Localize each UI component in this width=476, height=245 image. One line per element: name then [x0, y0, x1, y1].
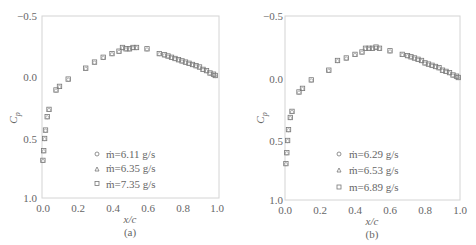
data-point-circle	[310, 79, 313, 82]
legend-square-icon	[337, 185, 341, 189]
x-tick-label: 0.4	[348, 204, 362, 216]
data-point-circle	[353, 53, 356, 56]
panel-a: −0.5 0.0 0.5 1.0 0.0 0.2 0.4 0.6 0.8 1.0…	[7, 10, 224, 239]
legend-triangle-icon	[337, 168, 341, 172]
y-tick-labels-a: −0.5 0.0 0.5 1.0	[17, 10, 37, 204]
data-point-circle	[67, 78, 70, 81]
x-tick-label: 0.4	[106, 202, 120, 214]
legend-label: m=6.89 g/s	[349, 181, 399, 193]
panel-b: −0.5 0.0 0.5 1.0 0.0 0.2 0.4 0.6 0.8 1.0…	[254, 10, 467, 241]
data-point-circle	[42, 150, 45, 153]
legend-label: ṁ=7.35 g/s	[106, 178, 156, 190]
legend-label: ṁ=6.11 g/s	[106, 148, 155, 160]
y-tick-label: −0.5	[17, 10, 37, 22]
y-axis-label-sub: p	[260, 112, 269, 117]
legend-circle-icon	[337, 152, 341, 156]
x-tick-label: 0.8	[176, 202, 190, 214]
data-point-circle	[388, 50, 391, 53]
y-tick-labels-b: −0.5 0.0 0.5 1.0	[263, 10, 283, 206]
x-axis-label-a: x/c	[123, 213, 137, 225]
x-tick-label: 1.0	[453, 204, 467, 216]
data-point-circle	[287, 129, 290, 132]
legend-circle-icon	[95, 152, 99, 156]
x-axis-label-b: x/c	[365, 215, 379, 227]
x-tick-label: 0.0	[278, 204, 292, 216]
data-point-circle	[47, 108, 50, 111]
legend-b: ṁ=6.29 g/s ṁ=6.53 g/s m=6.89 g/s	[337, 148, 399, 193]
figure: −0.5 0.0 0.5 1.0 0.0 0.2 0.4 0.6 0.8 1.0…	[0, 0, 476, 245]
data-point-circle	[285, 152, 288, 155]
legend-triangle-icon	[95, 167, 99, 171]
data-point-circle	[336, 60, 339, 63]
y-tick-label: 0.0	[269, 73, 283, 85]
data-point-circle	[46, 116, 49, 119]
legend-label: ṁ=6.53 g/s	[349, 164, 399, 176]
x-tick-label: 0.2	[313, 204, 327, 216]
legend-square-icon	[95, 182, 99, 186]
data-point-circle	[93, 61, 96, 64]
x-tick-label: 1.0	[210, 202, 224, 214]
y-axis-label-b: Cp	[254, 112, 269, 123]
data-point-circle	[290, 110, 293, 113]
data-point-circle	[84, 67, 87, 70]
data-point-circle	[102, 56, 105, 59]
data-point-circle	[297, 91, 300, 94]
y-tick-label: 0.5	[23, 133, 37, 145]
data-point-circle	[286, 140, 289, 143]
caption-a: (a)	[124, 226, 137, 239]
legend-a: ṁ=6.11 g/s ṁ=6.35 g/s ṁ=7.35 g/s	[95, 148, 156, 190]
data-point-circle	[360, 51, 363, 54]
x-tick-label: 0.6	[383, 204, 397, 216]
x-tick-label: 0.2	[71, 202, 85, 214]
data-point-circle	[301, 87, 304, 90]
data-point-circle	[145, 48, 148, 51]
data-point-circle	[58, 85, 61, 88]
y-axis-label-sub: p	[13, 112, 22, 117]
y-tick-label: 0.5	[269, 135, 283, 147]
x-tick-label: 0.8	[418, 204, 432, 216]
data-point-circle	[110, 53, 113, 56]
data-point-circle	[158, 53, 161, 56]
caption-b: (b)	[366, 228, 379, 241]
y-tick-label: 0.0	[23, 71, 37, 83]
y-tick-label: −0.5	[263, 10, 283, 22]
data-point-circle	[43, 138, 46, 141]
data-point-circle	[401, 53, 404, 56]
data-point-circle	[44, 129, 47, 132]
data-point-circle	[117, 50, 120, 53]
data-point-circle	[54, 89, 57, 92]
x-tick-label: 0.6	[141, 202, 155, 214]
legend-label: ṁ=6.29 g/s	[349, 148, 399, 160]
y-axis-label-a: Cp	[7, 112, 22, 123]
data-point-circle	[289, 117, 292, 120]
data-point-circle	[327, 69, 330, 72]
legend-label: ṁ=6.35 g/s	[106, 162, 156, 174]
x-tick-label: 0.0	[36, 202, 50, 214]
data-point-circle	[345, 57, 348, 60]
data-points-a	[41, 45, 218, 162]
